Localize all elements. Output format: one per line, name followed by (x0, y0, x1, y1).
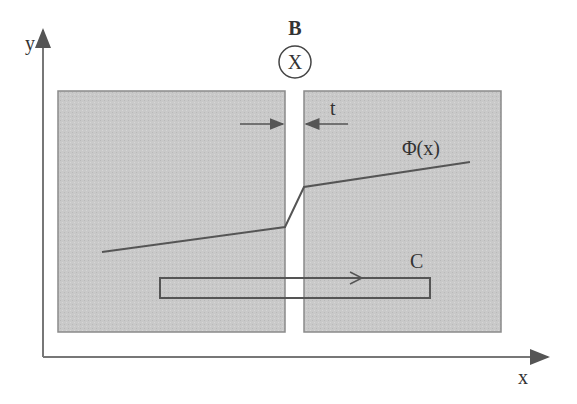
region-left (58, 91, 285, 332)
x-axis-label: x (518, 366, 528, 388)
field-symbol: X (288, 51, 303, 73)
loop-label: C (410, 250, 423, 272)
gap-label: t (330, 97, 336, 119)
field-label: B (288, 17, 301, 39)
diagram: X B y x t Φ(x) C (0, 0, 577, 404)
y-axis-label: y (25, 32, 35, 55)
region-right (304, 91, 501, 332)
conducting-region (58, 91, 501, 332)
slit-gap (286, 91, 303, 332)
magnetic-field-indicator: X B (279, 17, 311, 78)
potential-label: Φ(x) (402, 137, 440, 160)
